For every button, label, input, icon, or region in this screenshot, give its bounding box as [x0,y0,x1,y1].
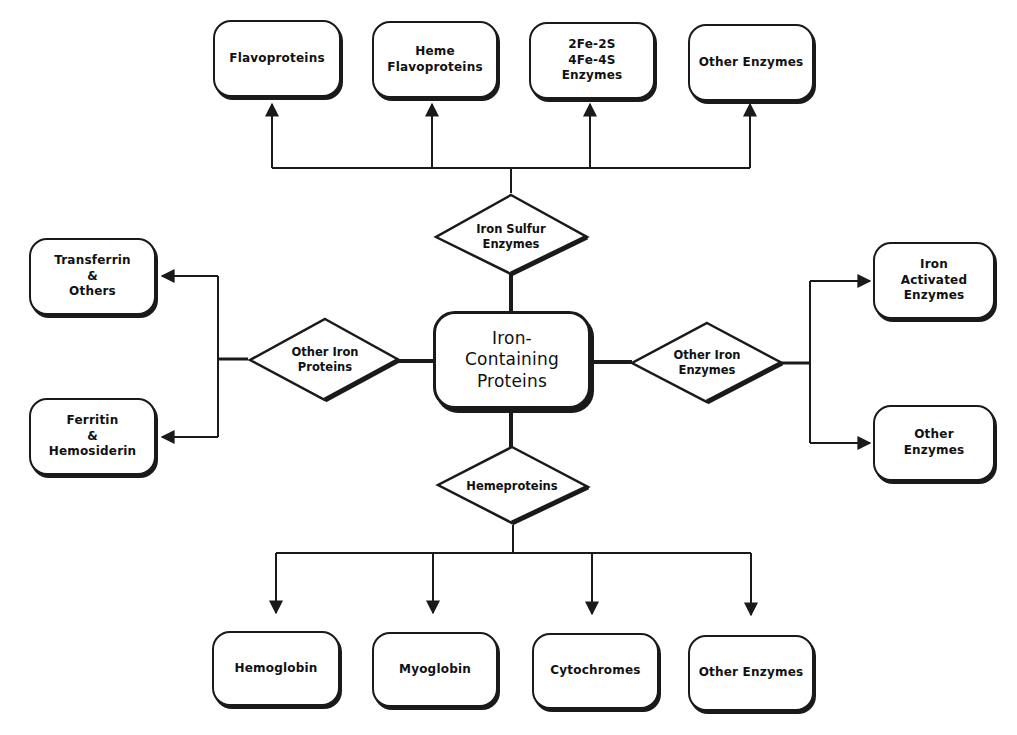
center-node-label: Iron- Containing Proteins [465,328,559,392]
box-label: Myoglobin [399,662,471,678]
box-label: Iron Activated Enzymes [901,257,967,304]
box-cytochromes: Cytochromes [532,633,659,709]
box-ferritin-hemosiderin: Ferritin & Hemosiderin [29,398,156,475]
box-bottom-other-enzymes: Other Enzymes [688,635,814,711]
decision-label-iron-sulfur: Iron Sulfur Enzymes [446,214,576,260]
box-right-other-enzymes: Other Enzymes [873,405,995,481]
box-fe-s-enzymes: 2Fe-2S 4Fe-4S Enzymes [529,22,655,99]
box-label: Transferrin & Others [54,253,131,300]
decision-label-other-iron-enzymes: Other Iron Enzymes [644,340,770,386]
box-label: Other Enzymes [699,665,804,681]
box-iron-activated-enzymes: Iron Activated Enzymes [873,242,995,319]
box-label: Hemoglobin [234,661,317,677]
box-label: Other Enzymes [904,427,965,458]
decision-label-other-iron-proteins: Other Iron Proteins [262,337,388,383]
box-label: 2Fe-2S 4Fe-4S Enzymes [562,37,623,84]
decision-label-hemeproteins: Hemeproteins [448,464,576,508]
box-label: Ferritin & Hemosiderin [49,413,137,460]
box-myoglobin: Myoglobin [372,632,498,707]
box-flavoproteins: Flavoproteins [213,20,341,97]
box-transferrin-others: Transferrin & Others [29,238,156,315]
box-label: Other Enzymes [699,55,804,71]
box-label: Heme Flavoproteins [387,44,483,75]
box-hemoglobin: Hemoglobin [212,631,340,706]
box-label: Flavoproteins [229,51,325,67]
center-node-iron-containing-proteins: Iron- Containing Proteins [433,311,591,409]
box-label: Cytochromes [550,663,640,679]
box-heme-flavoproteins: Heme Flavoproteins [372,21,498,98]
box-top-other-enzymes: Other Enzymes [688,24,814,101]
